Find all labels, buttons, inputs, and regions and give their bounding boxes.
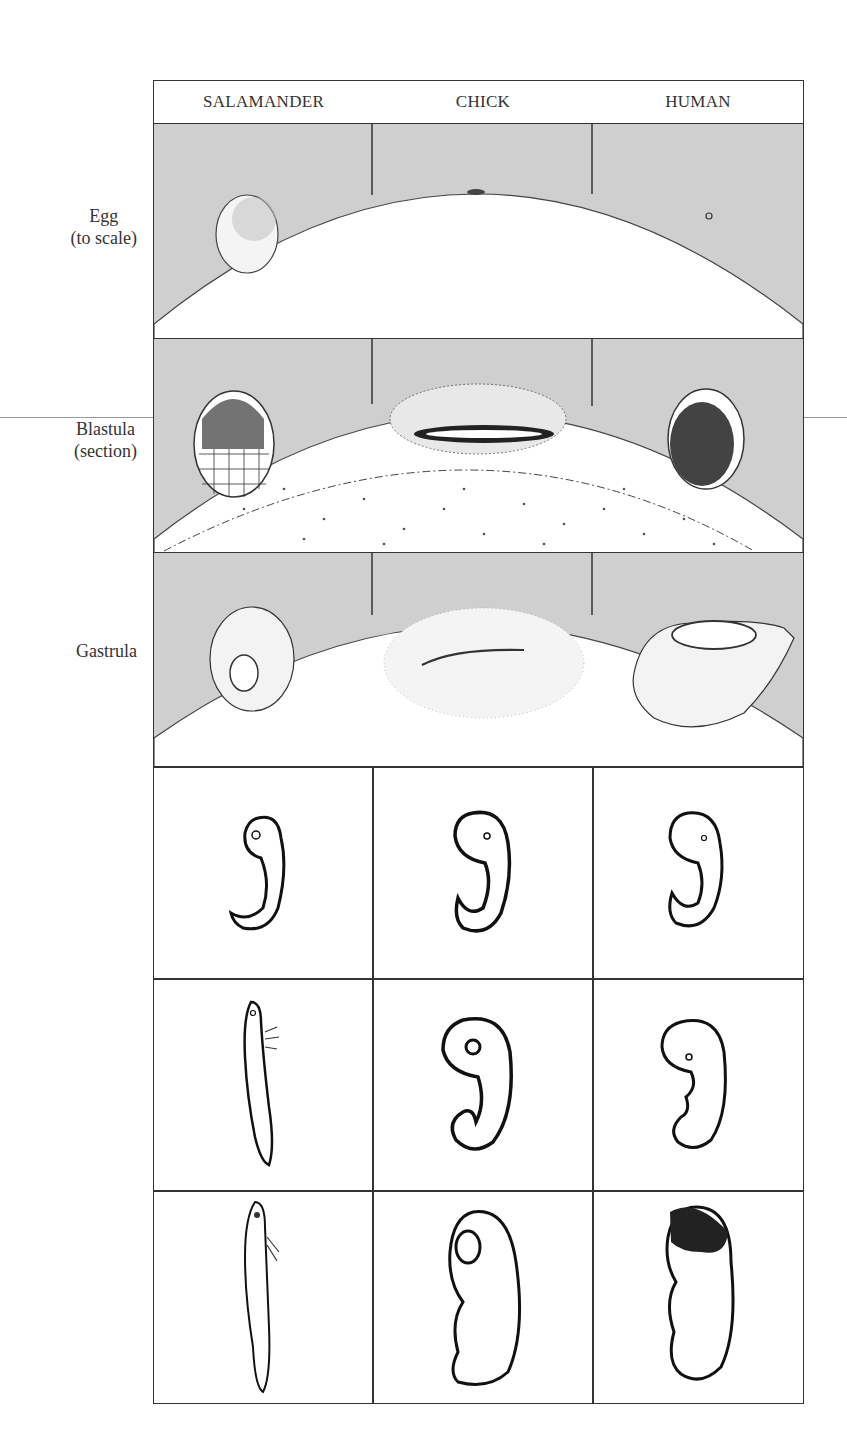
- row-label-blastula: Blastula (section): [74, 418, 137, 462]
- cell-chick-early-embryo: [373, 767, 592, 978]
- salamander-egg-icon: [216, 195, 278, 273]
- row-label-gastrula-title: Gastrula: [76, 640, 137, 662]
- chick-blastodisc-icon: [467, 189, 485, 195]
- cell-chick-mid-embryo: [373, 979, 592, 1190]
- human-blastocyst-icon: [668, 389, 744, 489]
- row-label-gastrula: Gastrula: [76, 640, 137, 662]
- row-label-egg: Egg (to scale): [71, 205, 137, 249]
- cell-salamander-larva: [154, 979, 372, 1190]
- cell-salamander-late-larva: [154, 1191, 372, 1403]
- salamander-larva-icon: [233, 997, 293, 1172]
- gastrula-row: [154, 553, 803, 767]
- human-egg-icon: [706, 213, 712, 219]
- row-label-blastula-subtitle: (section): [74, 440, 137, 462]
- row-label-egg-title: Egg: [71, 205, 137, 227]
- human-fetus-icon: [656, 1202, 741, 1392]
- salamander-early-embryo-icon: [223, 808, 303, 938]
- chick-late-embryo-icon: [438, 1202, 528, 1392]
- human-early-embryo-icon: [658, 808, 738, 938]
- row-label-egg-subtitle: (to scale): [71, 227, 137, 249]
- column-header-chick: CHICK: [373, 81, 593, 124]
- row-label-blastula-title: Blastula: [74, 418, 137, 440]
- cell-human-early-embryo: [593, 767, 803, 978]
- cell-salamander-early-embryo: [154, 767, 372, 978]
- column-header-human: HUMAN: [593, 81, 803, 124]
- chick-primitive-streak-icon: [384, 608, 584, 718]
- salamander-gastrula-icon: [210, 607, 294, 711]
- chick-blastoderm-icon: [390, 384, 566, 454]
- salamander-blastula-icon: [194, 391, 274, 497]
- chick-mid-embryo-icon: [438, 1012, 528, 1157]
- blastula-row: [154, 339, 803, 553]
- column-header-salamander: SALAMANDER: [154, 81, 373, 124]
- cell-human-fetus: [593, 1191, 803, 1403]
- chick-early-embryo-icon: [443, 808, 523, 938]
- cell-chick-late-embryo: [373, 1191, 592, 1403]
- salamander-late-larva-icon: [233, 1197, 293, 1397]
- egg-row: [154, 124, 803, 339]
- cell-human-mid-embryo: [593, 979, 803, 1190]
- human-mid-embryo-icon: [656, 1012, 741, 1157]
- human-gastrula-icon: [633, 621, 794, 727]
- comparison-grid: SALAMANDER CHICK HUMAN: [153, 80, 804, 1404]
